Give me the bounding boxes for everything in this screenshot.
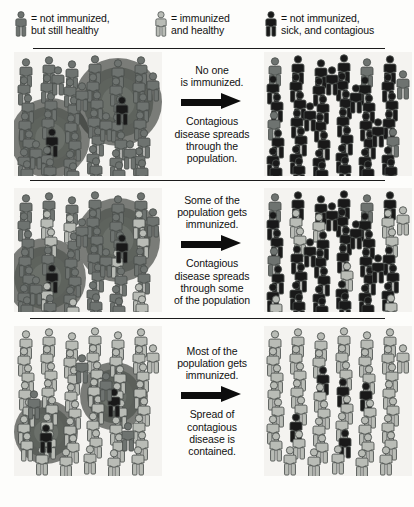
person-icon-sick (114, 234, 130, 264)
person-icon-healthy-unimmunized (98, 248, 114, 278)
person-icon-sick (114, 96, 130, 126)
row2-text-column: Some of the population gets immunized. C… (168, 188, 256, 312)
person-icon-sick (314, 297, 330, 312)
person-icon-healthy-unimmunized (88, 157, 104, 176)
legend-item-immunized-healthy: = immunized and healthy (154, 11, 264, 37)
person-icon-sick (337, 156, 353, 176)
before-panel-row3 (14, 326, 162, 476)
person-icon-immunized (383, 294, 399, 312)
person-icon-immunized (58, 448, 74, 476)
row1-caption: Contagious disease spreads through the p… (175, 115, 250, 164)
person-icon-healthy-unimmunized (42, 158, 58, 176)
after-panel-row2 (264, 188, 412, 312)
row-divider-2 (30, 318, 385, 319)
person-icon-sick (383, 158, 399, 176)
legend-label-sick-contagious: = not immunized, sick, and contagious (281, 12, 374, 37)
person-icon-immunized (134, 295, 150, 312)
person-icon-healthy-unimmunized (98, 112, 114, 142)
person-icon-sick (370, 118, 386, 148)
person-icon-immunized (65, 298, 81, 312)
person-icon-healthy-unimmunized (65, 162, 81, 176)
right-arrow-icon (181, 386, 243, 403)
person-icon-immunized (282, 446, 298, 476)
person-icon-healthy-unimmunized (50, 66, 66, 96)
row-most-immunized: Most of the population gets immunized. S… (0, 326, 414, 476)
person-icon-immunized (378, 446, 394, 476)
person-icon-immunized (268, 295, 284, 312)
person-icon-immunized (82, 445, 98, 475)
person-icon-sick (348, 84, 364, 114)
person-icon-sick (360, 296, 376, 312)
row1-heading: No one is immunized. (181, 64, 244, 88)
person-icon-sick (38, 424, 54, 454)
person-icon-sick (264, 11, 278, 37)
person-icon-healthy-unimmunized (98, 372, 114, 402)
person-icon-immunized (19, 432, 35, 462)
person-icon-healthy-unimmunized (122, 140, 138, 170)
person-icon-sick (291, 157, 307, 176)
person-icon-healthy-unimmunized (28, 140, 44, 170)
row1-text-column: No one is immunized. Contagious disease … (168, 52, 256, 176)
row2-heading: Some of the population gets immunized. (177, 194, 247, 231)
person-icon-sick (370, 254, 386, 284)
before-panel-row1 (14, 52, 162, 176)
row2-caption: Contagious disease spreads through some … (174, 257, 250, 306)
person-icon-sick (302, 238, 318, 268)
herd-immunity-infographic: = not immunized, but still healthy = imm… (0, 0, 414, 507)
row-some-immunized: Some of the population gets immunized. C… (0, 188, 414, 312)
person-icon-sick (314, 161, 330, 176)
person-icon-healthy-unimmunized (74, 354, 90, 384)
row3-heading: Most of the population gets immunized. (177, 345, 247, 382)
row3-caption: Spread of contagious disease is containe… (187, 408, 237, 457)
legend: = not immunized, but still healthy = imm… (0, 0, 414, 48)
person-icon-sick (337, 292, 353, 312)
person-icon-healthy-unimmunized (26, 390, 42, 420)
person-icon-immunized (330, 445, 346, 475)
row-no-immunization: No one is immunized. Contagious disease … (0, 52, 414, 176)
person-icon-immunized (106, 449, 122, 476)
before-panel-row2 (14, 188, 162, 312)
person-icon-healthy-unimmunized (42, 294, 58, 312)
after-panel-row3 (264, 326, 412, 476)
person-icon-sick (360, 160, 376, 176)
row-divider-1 (30, 180, 385, 181)
person-icon-immunized (354, 449, 370, 476)
person-icon-sick (324, 202, 340, 232)
person-icon-healthy-unimmunized (111, 297, 127, 312)
person-icon-healthy-unimmunized (74, 218, 90, 248)
person-icon-sick (348, 220, 364, 250)
legend-divider (33, 48, 385, 49)
row3-text-column: Most of the population gets immunized. S… (168, 326, 256, 476)
person-icon-sick (324, 66, 340, 96)
after-panel-row1 (264, 52, 412, 176)
legend-item-sick-contagious: = not immunized, sick, and contagious (264, 11, 414, 37)
person-icon-immunized (306, 448, 322, 476)
person-icon-healthy-unimmunized (74, 82, 90, 112)
person-icon-healthy-unimmunized (14, 11, 28, 37)
person-icon-healthy-unimmunized (120, 422, 136, 452)
right-arrow-icon (181, 235, 243, 252)
person-icon-sick (302, 102, 318, 132)
right-arrow-icon (181, 93, 243, 110)
person-icon-sick (268, 159, 284, 176)
person-icon-healthy-unimmunized (28, 276, 44, 306)
person-icon-sick (291, 293, 307, 312)
person-icon-healthy-unimmunized (88, 293, 104, 312)
legend-label-unimmunized-healthy: = not immunized, but still healthy (31, 12, 110, 37)
legend-item-unimmunized-healthy: = not immunized, but still healthy (14, 11, 154, 37)
legend-label-immunized-healthy: = immunized and healthy (171, 12, 230, 37)
person-icon-immunized (154, 11, 168, 37)
